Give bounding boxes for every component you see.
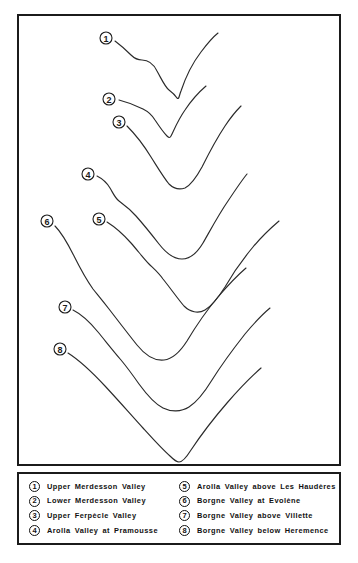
profile-5-marker: 5	[93, 213, 105, 225]
legend-item-5: 5Arolla Valley above Les Haudères	[179, 479, 336, 494]
profile-8-curve	[68, 353, 261, 462]
profile-markers-group: 12345678	[41, 32, 125, 355]
legend-label-8: Borgne Valley below Heremence	[197, 527, 329, 534]
marker-label-7: 7	[62, 303, 67, 313]
legend-label-6: Borgne Valley at Evolène	[197, 497, 301, 504]
legend-panel: 1Upper Merdesson Valley5Arolla Valley ab…	[17, 472, 341, 545]
marker-label-4: 4	[85, 170, 90, 180]
profile-5-curve	[107, 221, 279, 312]
diagram-panel: 12345678	[17, 14, 341, 466]
legend-badge-5: 5	[179, 481, 190, 492]
profile-8-marker: 8	[54, 343, 66, 355]
profile-7-marker: 7	[59, 301, 71, 313]
legend-badge-3: 3	[29, 510, 40, 521]
profile-6-marker: 6	[41, 215, 53, 227]
legend-badge-7: 7	[179, 510, 190, 521]
marker-label-1: 1	[103, 34, 108, 44]
profile-4-marker: 4	[82, 168, 94, 180]
profile-1-marker: 1	[100, 32, 112, 44]
legend-item-1: 1Upper Merdesson Valley	[29, 479, 179, 494]
marker-label-2: 2	[106, 95, 111, 105]
legend-label-5: Arolla Valley above Les Haudères	[197, 483, 336, 490]
legend-badge-1: 1	[29, 481, 40, 492]
legend-label-4: Arolla Valley at Pramousse	[47, 527, 158, 534]
legend-badge-2: 2	[29, 496, 40, 507]
profile-7-curve	[73, 308, 270, 411]
marker-label-5: 5	[96, 215, 101, 225]
legend-item-7: 7Borgne Valley above Villette	[179, 509, 336, 524]
profile-3-curve	[127, 106, 241, 189]
marker-label-3: 3	[116, 118, 121, 128]
legend-badge-6: 6	[179, 496, 190, 507]
legend-label-1: Upper Merdesson Valley	[47, 483, 146, 490]
figure-root: 12345678 1Upper Merdesson Valley5Arolla …	[0, 0, 358, 563]
legend-item-2: 2Lower Merdesson Valley	[29, 494, 179, 509]
legend-item-3: 3Upper Ferpècle Valley	[29, 509, 179, 524]
legend-grid: 1Upper Merdesson Valley5Arolla Valley ab…	[19, 474, 339, 543]
marker-label-8: 8	[57, 345, 62, 355]
profile-2-marker: 2	[103, 93, 115, 105]
profile-2-curve	[119, 86, 206, 138]
profile-paths-group	[55, 33, 279, 462]
legend-badge-8: 8	[179, 525, 190, 536]
legend-item-4: 4Arolla Valley at Pramousse	[29, 523, 179, 538]
legend-label-2: Lower Merdesson Valley	[47, 497, 146, 504]
marker-label-6: 6	[44, 217, 49, 227]
valley-profiles-chart: 12345678	[19, 16, 343, 468]
legend-item-8: 8Borgne Valley below Heremence	[179, 523, 336, 538]
profile-6-curve	[55, 226, 246, 360]
legend-item-6: 6Borgne Valley at Evolène	[179, 494, 336, 509]
legend-badge-4: 4	[29, 525, 40, 536]
legend-label-3: Upper Ferpècle Valley	[47, 512, 136, 519]
profile-3-marker: 3	[113, 116, 125, 128]
legend-label-7: Borgne Valley above Villette	[197, 512, 313, 519]
